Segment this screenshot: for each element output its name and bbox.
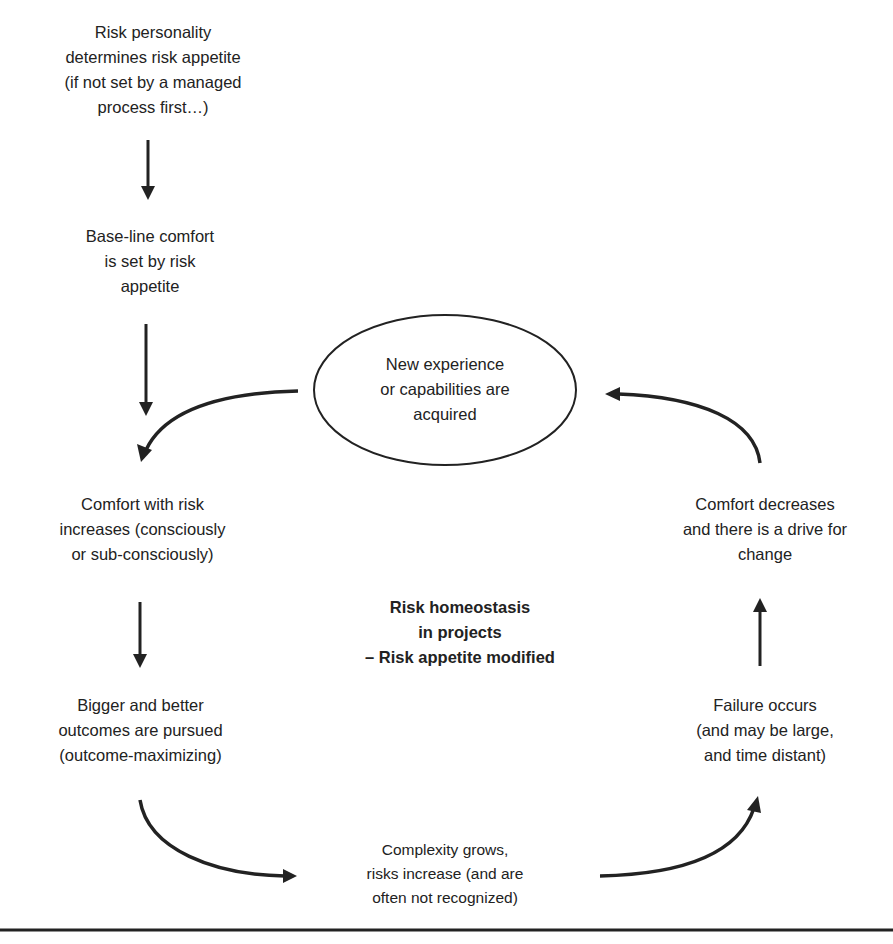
center-title: Risk homeostasis in projects – Risk appe… [310, 595, 610, 670]
arrow-bigger-to-complexity [140, 800, 297, 883]
node-failure-occurs: Failure occurs (and may be large, and ti… [650, 693, 880, 768]
arrow-personality-to-baseline [141, 140, 155, 200]
node-comfort-decreases: Comfort decreases and there is a drive f… [640, 492, 890, 567]
arrow-baseline-to-comfort [139, 324, 153, 416]
node-risk-personality: Risk personality determines risk appetit… [18, 20, 288, 120]
node-complexity-grows: Complexity grows, risks increase (and ar… [320, 838, 570, 910]
node-baseline-comfort: Base-line comfort is set by risk appetit… [40, 224, 260, 299]
node-new-experience: New experience or capabilities are acqui… [320, 352, 570, 427]
diagram-connectors [0, 0, 893, 944]
arrow-comfort-to-bigger [133, 602, 147, 668]
arrow-decreases-to-experience [605, 387, 760, 463]
node-comfort-increases: Comfort with risk increases (consciously… [20, 492, 265, 567]
arrow-complexity-to-failure [600, 796, 761, 876]
arrow-failure-to-decreases [753, 598, 767, 666]
node-bigger-outcomes: Bigger and better outcomes are pursued (… [18, 693, 263, 768]
arrow-experience-to-comfort [137, 391, 298, 462]
